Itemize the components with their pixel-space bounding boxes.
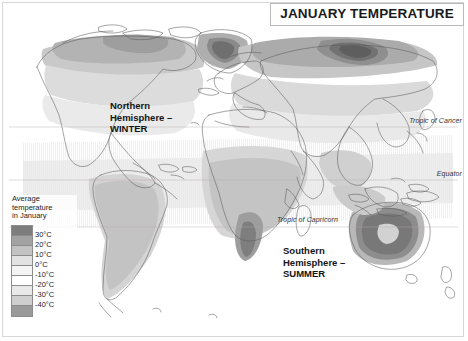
legend-label-column: 30°C20°C10°C0°C-10°C-20°C-30°C-40°C — [35, 225, 75, 315]
legend-swatch-5 — [12, 276, 32, 286]
map-legend: Average temperature in January 30°C20°C1… — [11, 195, 77, 317]
legend-swatch-1 — [12, 236, 32, 246]
southern-hemisphere-callout: Southern Hemisphere – SUMMER — [283, 245, 345, 280]
southern-callout-line-1: Southern — [283, 245, 345, 257]
january-temperature-map-figure: JANUARY TEMPERATURE Tropic of Cancer Equ… — [0, 0, 468, 341]
legend-heading-line-3: in January — [12, 212, 77, 221]
legend-label-0: 30°C — [35, 225, 75, 235]
legend-scale: 30°C20°C10°C0°C-10°C-20°C-30°C-40°C — [11, 225, 75, 317]
legend-swatch-2 — [12, 246, 32, 256]
northern-hemisphere-callout: Northern Hemisphere – WINTER — [110, 100, 172, 135]
page-title: JANUARY TEMPERATURE — [280, 7, 454, 21]
tropic-of-cancer-label: Tropic of Cancer — [409, 117, 462, 124]
legend-swatch-3 — [12, 256, 32, 266]
legend-swatch-8 — [12, 306, 32, 316]
legend-swatch-7 — [12, 296, 32, 306]
figure-title-box: JANUARY TEMPERATURE — [270, 3, 464, 26]
northern-callout-line-2: Hemisphere – — [110, 112, 172, 124]
legend-swatch-column — [11, 225, 33, 317]
southern-callout-line-3: SUMMER — [283, 268, 345, 280]
legend-heading: Average temperature in January — [12, 195, 77, 221]
legend-swatch-4 — [12, 266, 32, 276]
equator-label: Equator — [437, 170, 462, 177]
legend-swatch-6 — [12, 286, 32, 296]
southern-callout-line-2: Hemisphere – — [283, 257, 345, 269]
northern-callout-line-3: WINTER — [110, 123, 172, 135]
tropic-of-capricorn-label: Tropic of Capricorn — [277, 216, 338, 223]
legend-swatch-0 — [12, 226, 32, 236]
northern-callout-line-1: Northern — [110, 100, 172, 112]
